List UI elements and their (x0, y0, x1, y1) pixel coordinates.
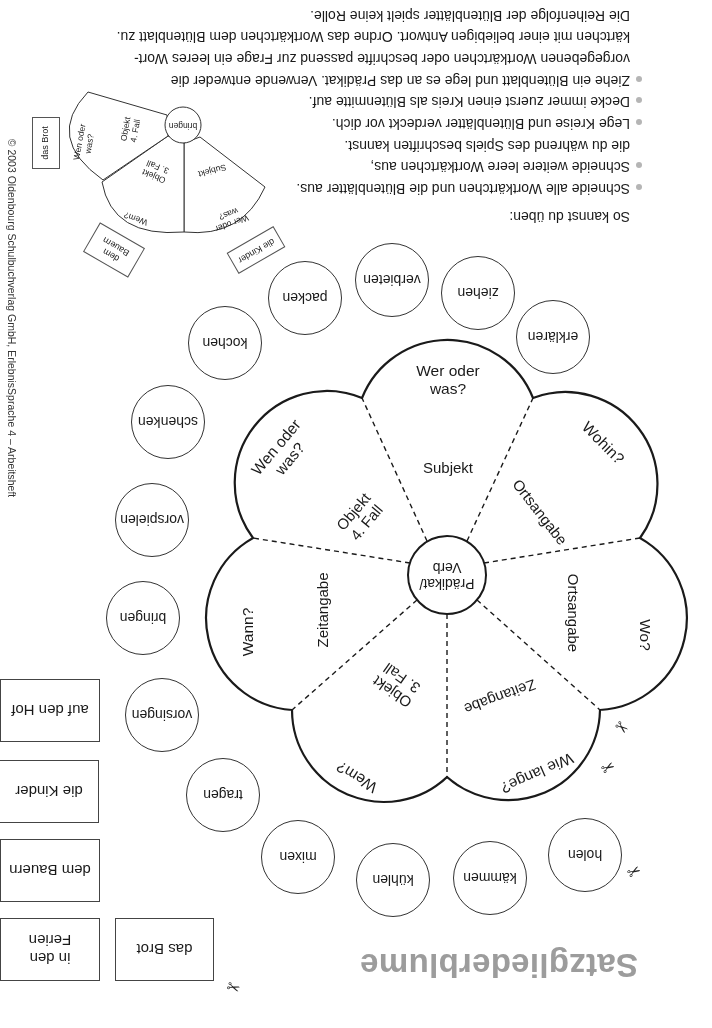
verb-label: vorspielen (120, 512, 184, 528)
verb-label: kühlen (372, 872, 413, 888)
verb-label: holen (568, 847, 602, 863)
instructions-heading: So kannst du üben: (509, 209, 630, 225)
verb-circle-vorspielen[interactable]: vorspielen (115, 483, 189, 557)
verb-circle-kuehlen[interactable]: kühlen (356, 843, 430, 917)
instruction-line: Schneide alle Wortkärtchen und die Blüte… (296, 181, 630, 197)
verb-label: schenken (138, 414, 198, 430)
example-card-das-brot: das Brot (32, 117, 60, 169)
example-center-verb: bringen (169, 120, 197, 130)
flower-center-predicate: Prädikat/ Verb (419, 560, 474, 592)
verb-circle-vorsingen[interactable]: vorsingen (125, 678, 199, 752)
verb-label: mixen (279, 849, 316, 865)
verb-circle-mixen[interactable]: mixen (261, 820, 335, 894)
word-card-in-den-ferien[interactable]: in den Ferien (0, 918, 100, 981)
instruction-line: Die Reihenfolge der Blütenblätter spielt… (310, 8, 630, 24)
bullet-icon (636, 76, 642, 82)
verb-label: packen (282, 290, 327, 306)
verb-label: ziehen (457, 285, 498, 301)
word-card-das-brot[interactable]: das Brot (115, 918, 214, 981)
copyright-notice: © 2003 Oldenbourg Schulbuchverlag GmbH, … (6, 139, 18, 498)
verb-label: kochen (202, 335, 247, 351)
instruction-line: die du während des Spiels beschriften ka… (344, 138, 630, 154)
verb-circle-packen[interactable]: packen (268, 261, 342, 335)
word-card-auf-den-hof[interactable]: auf den Hof (0, 679, 100, 742)
verb-circle-ziehen[interactable]: ziehen (441, 256, 515, 330)
instruction-line: Lege Kreise und Blütenblätter verdeckt v… (332, 116, 630, 132)
petal-subjekt-question: Wer oder was? (416, 362, 479, 398)
verb-label: bringen (120, 610, 167, 626)
petal-wo-question: Wo? (636, 619, 654, 651)
verb-circle-bringen[interactable]: bringen (106, 581, 180, 655)
instruction-line: Schneide weitere leere Wortkärtchen aus, (370, 159, 630, 175)
petal-wann-label: Zeitangabe (314, 572, 331, 647)
verb-circle-verbieten[interactable]: verbieten (355, 243, 429, 317)
verb-label: tragen (203, 787, 243, 803)
bullet-icon (636, 119, 642, 125)
verb-circle-tragen[interactable]: tragen (186, 758, 260, 832)
verb-label: erklären (528, 329, 579, 345)
word-card-dem-bauern[interactable]: dem Bauern (0, 839, 100, 902)
verb-label: vorsingen (132, 707, 193, 723)
bullet-icon (636, 97, 642, 103)
instruction-line: vorgegebenen Wortkärtchen oder beschrift… (134, 51, 630, 67)
petal-subjekt-label: Subjekt (423, 459, 473, 476)
verb-circle-erklaeren[interactable]: erklären (516, 300, 590, 374)
verb-circle-holen[interactable]: holen (548, 818, 622, 892)
verb-label: verbieten (363, 272, 421, 288)
verb-label: kämmen (463, 870, 517, 886)
instruction-line: Ziehe ein Blütenblatt und lege es an das… (171, 73, 630, 89)
instruction-line: Decke immer zuerst einen Kreis als Blüte… (309, 94, 630, 110)
word-card-die-kinder[interactable]: die Kinder (0, 760, 99, 823)
bullet-icon (636, 162, 642, 168)
bullet-icon (636, 184, 642, 190)
instruction-line: kärtchen mit einer beliebigen Antwort. O… (117, 29, 630, 45)
petal-wo-label: Ortsangabe (564, 574, 581, 652)
verb-circle-kaemmen[interactable]: kämmen (453, 841, 527, 915)
petal-wann-question: Wann? (239, 608, 257, 657)
verb-circle-kochen[interactable]: kochen (188, 306, 262, 380)
worksheet-page: Satzgliederblume ✂ ✂ ✂ ✂ Wer oder was? S… (0, 0, 712, 1028)
verb-circle-schenken[interactable]: schenken (131, 385, 205, 459)
